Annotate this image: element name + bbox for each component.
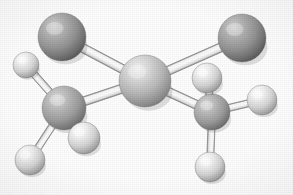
- atom-H-bottom-left: [15, 145, 46, 177]
- atom-H-left: [13, 52, 40, 80]
- atom-layer: [13, 13, 278, 184]
- molecule-canvas: [0, 0, 293, 195]
- atom-C-upper-right: [218, 14, 267, 65]
- atom-C-center: [119, 55, 173, 111]
- atom-C-lower-right: [194, 94, 231, 133]
- atom-C-upper-left: [38, 13, 87, 64]
- atom-H-bottom-right: [195, 152, 226, 184]
- atom-H-upper-right-arm: [192, 63, 223, 95]
- atom-H-lower-mid: [68, 122, 101, 156]
- molecular-model-figure: [0, 0, 293, 195]
- atom-H-right: [247, 85, 278, 117]
